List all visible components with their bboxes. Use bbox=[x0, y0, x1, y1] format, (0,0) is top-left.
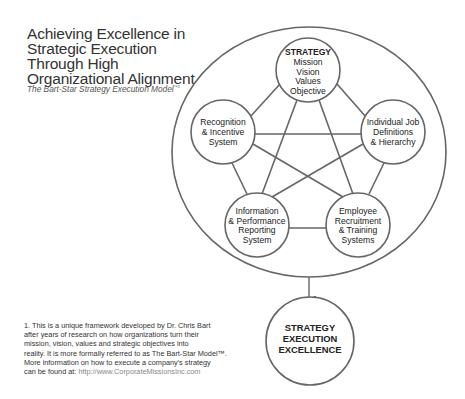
node-label: System bbox=[209, 137, 238, 147]
node-label: Definitions bbox=[373, 127, 413, 137]
footnote-line: reality. It is more formally referred to… bbox=[24, 349, 294, 358]
website-link[interactable]: http://www.CorporateMissionsInc.com bbox=[78, 367, 200, 376]
footnote-line: after years of research on how organizat… bbox=[24, 330, 294, 339]
node-label: Recognition bbox=[200, 117, 246, 127]
node-label: Objective bbox=[290, 86, 326, 96]
node-information-reporting: Information & Performance Reporting Syst… bbox=[225, 193, 289, 257]
node-label: Systems bbox=[342, 235, 375, 245]
node-strategy-title: STRATEGY bbox=[285, 47, 331, 57]
footnote-line: mission, vision, values and strategic ob… bbox=[24, 339, 294, 348]
node-label: Information bbox=[236, 206, 279, 216]
node-label: & Training bbox=[339, 225, 378, 235]
node-label: System bbox=[243, 235, 272, 245]
footnote-line: More information on how to execute a com… bbox=[24, 358, 294, 367]
node-label: & Hierarchy bbox=[371, 137, 417, 147]
node-label: Mission bbox=[293, 57, 322, 67]
node-label: Values bbox=[295, 76, 321, 86]
node-label: Recruitment bbox=[335, 216, 382, 226]
star-connectors bbox=[253, 100, 363, 197]
node-label: & Performance bbox=[228, 216, 286, 226]
footnote: 1. This is a unique framework developed … bbox=[24, 321, 294, 376]
node-label: Vision bbox=[296, 67, 319, 77]
node-label: Reporting bbox=[238, 225, 275, 235]
node-individual-job: Individual Job Definitions & Hierarchy bbox=[361, 100, 425, 164]
footnote-line: 1. This is a unique framework developed … bbox=[24, 321, 294, 330]
node-employee-recruitment: Employee Recruitment & Training Systems bbox=[326, 193, 390, 257]
node-strategy: STRATEGY Mission Vision Values Objective bbox=[276, 38, 340, 102]
node-label: & Incentive bbox=[202, 127, 245, 137]
node-label: Individual Job bbox=[367, 117, 420, 127]
node-recognition: Recognition & Incentive System bbox=[191, 100, 255, 164]
footnote-prefix: can be found at: bbox=[24, 367, 78, 376]
footnote-line: can be found at: http://www.CorporateMis… bbox=[24, 367, 294, 376]
node-label: Employee bbox=[339, 206, 377, 216]
